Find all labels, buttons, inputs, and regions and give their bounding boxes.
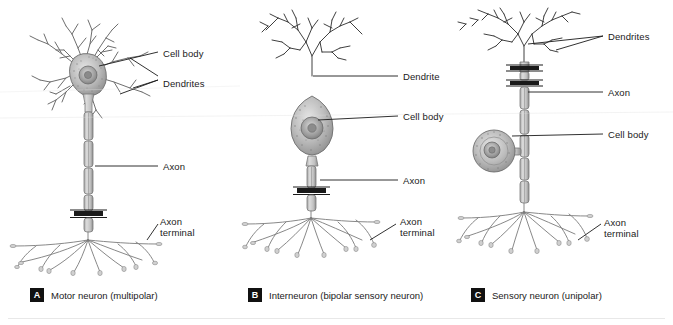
panel-c-caption-text: Sensory neuron (unipolar) bbox=[492, 290, 602, 301]
panel-b-caption-text: Interneuron (bipolar sensory neuron) bbox=[269, 290, 423, 301]
panel-c-axon bbox=[506, 62, 543, 203]
panel-c-terminal-boutons bbox=[457, 214, 593, 253]
neuron-illustrations bbox=[0, 0, 673, 325]
panel-a-axon bbox=[70, 94, 107, 232]
footer-divider bbox=[8, 318, 665, 319]
panel-a-caption: A Motor neuron (multipolar) bbox=[30, 288, 158, 302]
panel-c-dendrite-tree bbox=[458, 8, 580, 62]
panel-b-label-axon: Axon bbox=[403, 175, 425, 186]
panel-c-caption: C Sensory neuron (unipolar) bbox=[471, 288, 602, 302]
panel-c-label-dendrites: Dendrites bbox=[608, 31, 650, 42]
panel-a-label-axon: Axon bbox=[163, 161, 185, 172]
panel-b-label-dendrite: Dendrite bbox=[403, 71, 440, 82]
panel-c-badge: C bbox=[471, 288, 485, 302]
panel-b-cell-body bbox=[291, 96, 333, 155]
panel-a-label-cell-body: Cell body bbox=[163, 48, 204, 59]
panel-a-badge: A bbox=[30, 288, 44, 302]
panel-b-leader-lines bbox=[313, 76, 398, 240]
panel-c-label-axon: Axon bbox=[608, 87, 630, 98]
panel-a-label-dendrites: Dendrites bbox=[163, 78, 205, 89]
panel-b-caption: B Interneuron (bipolar sensory neuron) bbox=[248, 288, 423, 302]
panel-c-label-cell-body: Cell body bbox=[608, 129, 649, 140]
panel-b-axon bbox=[293, 156, 330, 211]
panel-b-badge: B bbox=[248, 288, 262, 302]
panel-a-label-axon-terminal: Axon terminal bbox=[160, 216, 195, 238]
panel-a-neuron bbox=[10, 18, 162, 276]
panel-b-neuron bbox=[242, 10, 398, 258]
panel-b-label-axon-terminal: Axon terminal bbox=[400, 216, 435, 238]
panel-b-label-cell-body: Cell body bbox=[403, 111, 444, 122]
panel-b-dendrite-tree bbox=[260, 10, 362, 76]
neuron-types-figure: Cell body Dendrites Axon Axon terminal D… bbox=[0, 0, 673, 325]
panel-c-neuron bbox=[457, 8, 603, 254]
panel-c-label-axon-terminal: Axon terminal bbox=[604, 217, 639, 239]
panel-a-caption-text: Motor neuron (multipolar) bbox=[51, 290, 158, 301]
